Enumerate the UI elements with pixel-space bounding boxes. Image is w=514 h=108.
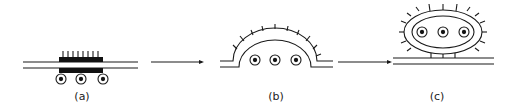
stage-c-label: (c) — [430, 90, 445, 103]
stage-c-membrane — [393, 58, 494, 64]
arrow-b-to-c — [338, 60, 392, 64]
stage-b-particles — [250, 55, 301, 65]
stage-a-label: (a) — [74, 90, 89, 103]
stage-c-particles — [417, 27, 469, 37]
stage-a-particles — [56, 74, 108, 84]
stage-a-coat — [59, 51, 103, 73]
stage-a-membrane — [23, 62, 138, 68]
arrow-a-to-b — [151, 60, 204, 64]
stage-b-label: (b) — [268, 90, 284, 103]
